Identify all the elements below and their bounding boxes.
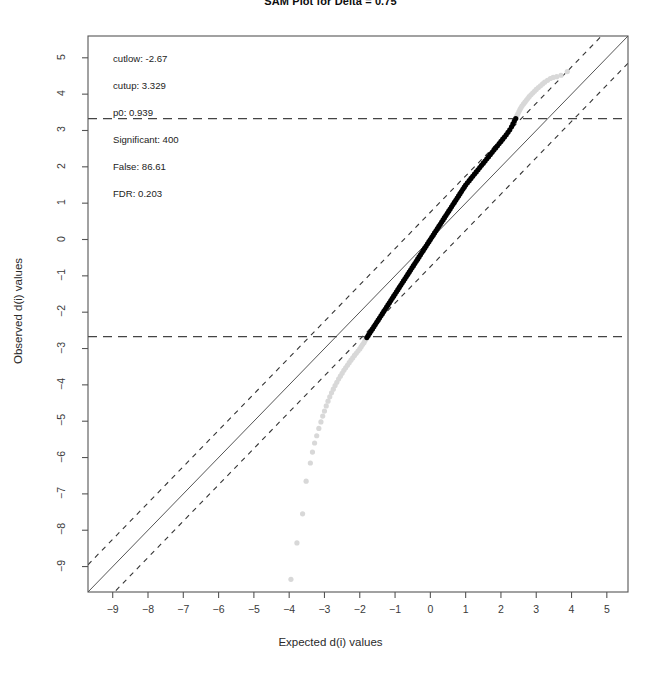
y-tick-label: −6 xyxy=(55,440,67,474)
identity xyxy=(88,36,628,592)
x-tick-label: −8 xyxy=(128,603,168,615)
y-tick-label: 2 xyxy=(55,149,67,183)
x-axis-label: Expected d(i) values xyxy=(0,636,661,648)
y-tick-label: 0 xyxy=(55,222,67,256)
x-tick-label: −4 xyxy=(269,603,309,615)
y-tick-label: −3 xyxy=(55,331,67,365)
plot-canvas xyxy=(0,0,661,673)
x-tick-label: 1 xyxy=(446,603,486,615)
y-tick-label: −4 xyxy=(55,367,67,401)
sam-plot-figure: SAM Plot for Delta = 0.75 Expected d(i) … xyxy=(0,0,661,673)
x-tick-label: 0 xyxy=(410,603,450,615)
y-tick-label: −5 xyxy=(55,403,67,437)
y-axis-label: Observed d(i) values xyxy=(12,221,24,401)
x-tick-label: −9 xyxy=(93,603,133,615)
y-tick-label: 3 xyxy=(55,112,67,146)
x-tick-label: 3 xyxy=(516,603,556,615)
x-tick-label: −6 xyxy=(199,603,239,615)
x-tick-label: 4 xyxy=(552,603,592,615)
x-tick-label: −1 xyxy=(375,603,415,615)
y-tick-label: −1 xyxy=(55,258,67,292)
x-tick-label: −3 xyxy=(304,603,344,615)
x-tick-label: −5 xyxy=(234,603,274,615)
annotation-cutlow: cutlow: -2.67 xyxy=(113,53,167,64)
x-tick-label: 5 xyxy=(587,603,627,615)
lower-delta-band xyxy=(88,63,628,619)
annotation-cutup: cutup: 3.329 xyxy=(113,80,166,91)
x-tick-label: −7 xyxy=(163,603,203,615)
y-tick-label: −7 xyxy=(55,476,67,510)
y-tick-label: 5 xyxy=(55,40,67,74)
x-tick-label: −2 xyxy=(340,603,380,615)
y-tick-label: −9 xyxy=(55,549,67,583)
upper-delta-band xyxy=(88,9,628,565)
annotation-significant: Significant: 400 xyxy=(113,134,179,145)
annotation-false: False: 86.61 xyxy=(113,161,166,172)
y-tick-label: −8 xyxy=(55,512,67,546)
series-non-significant-gray- xyxy=(288,69,570,582)
annotation-fdr: FDR: 0.203 xyxy=(113,188,162,199)
annotation-p0: p0: 0.939 xyxy=(113,107,153,118)
y-tick-label: 4 xyxy=(55,76,67,110)
y-tick-label: −2 xyxy=(55,294,67,328)
y-tick-label: 1 xyxy=(55,185,67,219)
x-tick-label: 2 xyxy=(481,603,521,615)
